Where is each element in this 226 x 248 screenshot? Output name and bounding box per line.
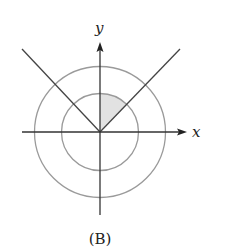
y-axis-label: y (94, 19, 104, 37)
line-y-equals-negative-x (22, 49, 100, 132)
x-axis-label: x (192, 123, 201, 141)
polar-region-diagram: x y (B) (0, 0, 226, 248)
line-y-equals-x (100, 49, 180, 132)
shaded-sector (100, 94, 127, 133)
figure-caption: (B) (89, 230, 112, 248)
